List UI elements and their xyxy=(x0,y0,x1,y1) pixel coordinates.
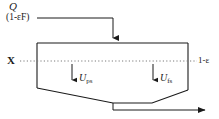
right-axis-label: 1-ε xyxy=(198,56,209,65)
fluid-flux-subscript: fs xyxy=(167,77,172,85)
outlet-stream-pipe xyxy=(113,103,205,110)
feed-flow-symbol: Q xyxy=(9,1,17,12)
feed-concentration-label: (1-εF) xyxy=(6,13,30,23)
feed-inlet-pipe xyxy=(37,18,113,38)
left-axis-label: X xyxy=(7,55,15,66)
particle-flux-label: Ups xyxy=(79,73,92,83)
diagram-canvas xyxy=(0,0,219,119)
flowsheet-diagram: Q (1-εF) X 1-ε Ups Ufs xyxy=(0,0,219,119)
fluid-flux-label: Ufs xyxy=(160,73,172,83)
particle-flux-subscript: ps xyxy=(86,77,92,85)
